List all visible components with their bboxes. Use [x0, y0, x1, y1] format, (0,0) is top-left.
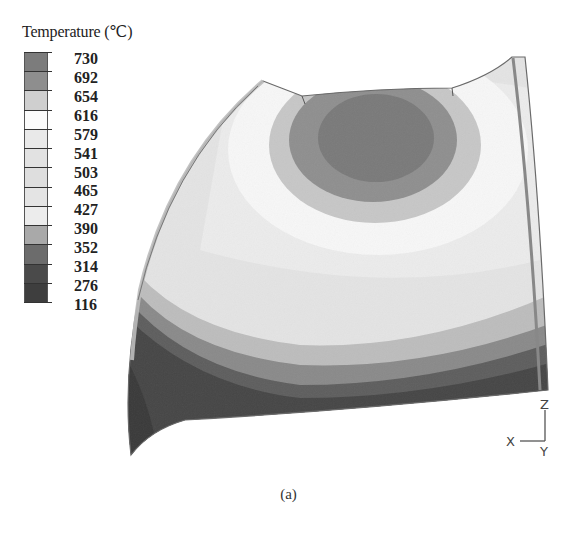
figure-caption: (a) — [0, 486, 577, 503]
axis-z-label: Z — [540, 397, 549, 412]
temperature-contour-plot: Z X Y — [0, 0, 577, 541]
axis-x-label: X — [506, 434, 515, 449]
axis-triad: Z X Y — [506, 397, 549, 459]
axis-y-label: Y — [539, 444, 548, 459]
